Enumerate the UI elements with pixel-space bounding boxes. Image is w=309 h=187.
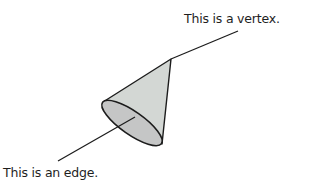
edge-label: This is an edge.: [3, 165, 98, 180]
cone-diagram: [0, 0, 309, 187]
vertex-label: This is a vertex.: [184, 11, 280, 26]
vertex-pointer-line: [171, 31, 238, 59]
edge-pointer-line: [58, 117, 135, 161]
